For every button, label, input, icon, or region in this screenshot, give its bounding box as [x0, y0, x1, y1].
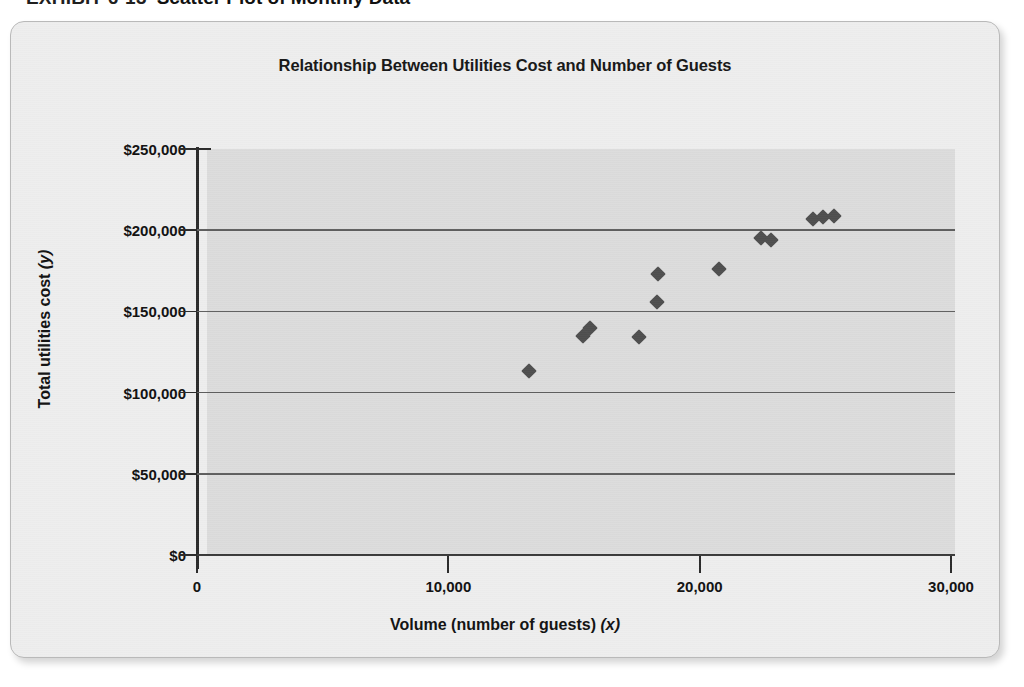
- gridline-y-250000: [197, 148, 211, 150]
- plot-background: [207, 149, 955, 555]
- y-tick-mark-150000: [179, 311, 197, 313]
- x-tick-mark-30000: [950, 556, 952, 573]
- y-tick-mark-250000: [179, 148, 197, 150]
- exhibit-header: EXHIBIT 6-13 Scatter Plot of Monthly Dat…: [26, 0, 410, 10]
- gridline-y-150000: [197, 311, 955, 313]
- y-tick-label-50000: $50,000: [66, 465, 186, 482]
- y-axis-line: [196, 147, 199, 569]
- figure-card: Relationship Between Utilities Cost and …: [10, 21, 1000, 658]
- exhibit-label: EXHIBIT 6-13: [26, 0, 147, 9]
- x-tick-label-20000: 20,000: [677, 578, 723, 595]
- x-tick-label-10000: 10,000: [425, 578, 471, 595]
- x-tick-label-30000: 30,000: [928, 578, 974, 595]
- x-tick-mark-20000: [699, 556, 701, 573]
- gridline-y-100000: [197, 392, 955, 394]
- y-tick-mark-50000: [179, 473, 197, 475]
- gridline-y-0: [197, 554, 955, 556]
- y-tick-mark-200000: [179, 229, 197, 231]
- y-axis-variable: (y): [36, 250, 53, 270]
- y-tick-mark-0: [179, 554, 197, 556]
- chart-title: Relationship Between Utilities Cost and …: [11, 56, 999, 75]
- x-axis-title: Volume (number of guests) (x): [11, 616, 999, 634]
- y-tick-mark-100000: [179, 392, 197, 394]
- gridline-y-200000: [197, 229, 955, 231]
- y-axis-title: Total utilities cost (y): [36, 169, 54, 489]
- y-tick-label-0: $0: [66, 547, 186, 564]
- x-tick-label-0: 0: [193, 578, 201, 595]
- x-axis-variable: (x): [600, 616, 620, 633]
- y-tick-label-150000: $150,000: [66, 303, 186, 320]
- y-tick-label-250000: $250,000: [66, 141, 186, 158]
- x-axis-title-text: Volume (number of guests): [390, 616, 596, 633]
- y-tick-label-200000: $200,000: [66, 222, 186, 239]
- x-tick-mark-10000: [447, 556, 449, 573]
- exhibit-title: Scatter Plot of Monthly Data: [157, 0, 410, 9]
- gridline-y-50000: [197, 473, 955, 475]
- y-axis-title-text: Total utilities cost: [36, 274, 53, 409]
- x-tick-mark-0: [196, 556, 198, 573]
- y-tick-label-100000: $100,000: [66, 384, 186, 401]
